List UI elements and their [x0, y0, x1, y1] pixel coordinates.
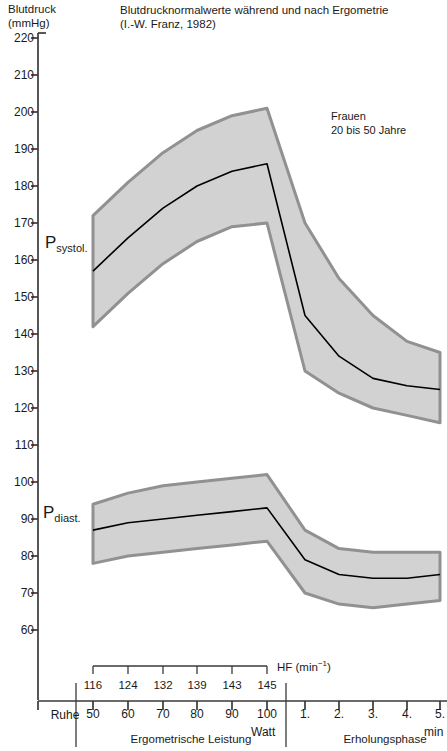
phase-caption-exercise: Ergometrische Leistung — [96, 733, 286, 746]
x-tick-label: 80 — [177, 708, 217, 721]
heart-rate-value: 139 — [177, 679, 217, 691]
x-tick-label: 100 — [247, 708, 287, 721]
x-tick-rest: Ruhe — [40, 708, 90, 722]
y-tick-label: 160 — [0, 254, 34, 266]
plot-area — [0, 0, 447, 751]
x-tick-label: 5. — [420, 708, 447, 721]
systolic-band — [93, 108, 440, 423]
y-tick-label: 110 — [0, 439, 34, 451]
data-bands-group — [93, 108, 440, 608]
diastolic-band — [93, 475, 440, 608]
y-tick-label: 210 — [0, 69, 34, 81]
heart-rate-value: 145 — [247, 679, 287, 691]
chart-figure: Blutdruck (mmHg) Blutdrucknormalwerte wä… — [0, 0, 447, 751]
heart-rate-value: 143 — [212, 679, 252, 691]
x-tick-label: 60 — [108, 708, 148, 721]
x-tick-label: 90 — [212, 708, 252, 721]
y-tick-label: 90 — [0, 513, 34, 525]
y-tick-label: 220 — [0, 32, 34, 44]
y-tick-label: 100 — [0, 476, 34, 488]
y-tick-label: 70 — [0, 587, 34, 599]
y-tick-label: 190 — [0, 143, 34, 155]
y-tick-label: 180 — [0, 180, 34, 192]
y-tick-label: 130 — [0, 365, 34, 377]
y-tick-label: 80 — [0, 550, 34, 562]
y-tick-label: 150 — [0, 291, 34, 303]
y-tick-label: 60 — [0, 624, 34, 636]
phase-caption-recovery: Erholungsphase — [315, 733, 447, 746]
y-tick-label: 170 — [0, 217, 34, 229]
y-tick-label: 200 — [0, 106, 34, 118]
y-tick-label: 140 — [0, 328, 34, 340]
heart-rate-value: 116 — [73, 679, 113, 691]
heart-rate-axis-label: HF (min−1) — [277, 659, 331, 673]
y-tick-label: 120 — [0, 402, 34, 414]
heart-rate-value: 124 — [108, 679, 148, 691]
